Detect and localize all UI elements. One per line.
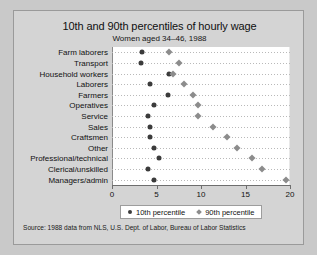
category-label: Laborers <box>14 80 108 89</box>
x-tick-label: 5 <box>154 190 158 199</box>
x-tick <box>157 185 158 189</box>
data-point-10th <box>157 156 162 161</box>
data-point-10th <box>166 92 171 97</box>
legend-label-10th: 10th percentile <box>136 208 185 217</box>
x-tick-label: 15 <box>241 190 250 199</box>
category-label: Managers/admin <box>14 175 108 184</box>
gridline <box>112 127 290 128</box>
category-label: Craftsmen <box>14 133 108 142</box>
category-label: Transport <box>14 58 108 67</box>
x-tick <box>112 185 113 189</box>
x-tick-label: 0 <box>110 190 114 199</box>
data-point-10th <box>139 60 144 65</box>
chart-legend: 10th percentile 90th percentile <box>120 205 262 219</box>
source-note: Source: 1988 data from NLS, U.S. Dept. o… <box>23 224 245 231</box>
x-tick <box>246 185 247 189</box>
circle-marker-icon <box>128 210 132 214</box>
gridline <box>112 74 290 75</box>
x-tick-label: 10 <box>197 190 206 199</box>
gridline <box>112 148 290 149</box>
x-tick <box>290 185 291 189</box>
category-label: Farmers <box>14 90 108 99</box>
gridline <box>112 84 290 85</box>
gridline <box>112 52 290 53</box>
data-point-10th <box>151 177 156 182</box>
gridline <box>112 95 290 96</box>
legend-item-90th: 90th percentile <box>197 208 254 217</box>
chart-title: 10th and 90th percentiles of hourly wage <box>14 20 305 32</box>
data-point-10th <box>151 145 156 150</box>
data-point-10th <box>148 82 153 87</box>
x-tick-label: 20 <box>286 190 295 199</box>
data-point-10th <box>148 124 153 129</box>
category-label: Household workers <box>14 69 108 78</box>
gridline <box>112 158 290 159</box>
diamond-marker-icon <box>196 209 202 215</box>
data-point-10th <box>140 50 145 55</box>
chart-subtitle: Women aged 34–46, 1988 <box>14 34 305 43</box>
data-point-10th <box>146 114 151 119</box>
category-label: Service <box>14 112 108 121</box>
category-label: Sales <box>14 122 108 131</box>
category-label: Professional/technical <box>14 154 108 163</box>
data-point-10th <box>148 135 153 140</box>
category-label: Clerical/unskilled <box>14 165 108 174</box>
legend-label-90th: 90th percentile <box>205 208 254 217</box>
gridline <box>112 180 290 181</box>
category-label: Other <box>14 143 108 152</box>
x-tick <box>201 185 202 189</box>
category-label: Farm laborers <box>14 48 108 57</box>
chart-figure: 10th and 90th percentiles of hourly wage… <box>13 10 304 245</box>
data-point-10th <box>145 167 150 172</box>
legend-item-10th: 10th percentile <box>128 208 185 217</box>
category-label: Operatives <box>14 101 108 110</box>
gridline <box>112 137 290 138</box>
data-point-10th <box>151 103 156 108</box>
